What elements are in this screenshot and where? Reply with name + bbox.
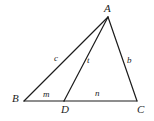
segment-label-dc: n — [95, 89, 100, 98]
vertex-label-c: C — [137, 104, 144, 115]
vertex-label-b: B — [12, 93, 19, 104]
segment-label-bd: m — [43, 90, 50, 99]
segment-ac — [108, 17, 137, 101]
segment-label-ac: b — [127, 56, 132, 65]
geometry-figure: A B C D c t b m n — [0, 0, 154, 121]
segment-ad-cevian — [64, 17, 108, 101]
segment-label-ad: t — [87, 56, 90, 65]
vertex-label-d: D — [61, 104, 69, 115]
vertex-label-a: A — [104, 3, 111, 14]
segment-label-ab: c — [54, 54, 58, 63]
